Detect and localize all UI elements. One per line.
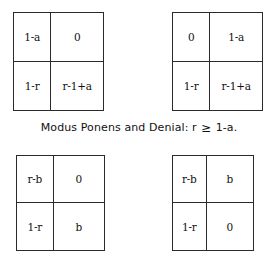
matrix-cell: 1-r (17, 203, 54, 250)
matrix-cell: r-b (17, 156, 54, 203)
figure-container: 1-a 0 1-r r-1+a 0 1-a 1-r r-1+a Modus Po… (0, 0, 278, 264)
matrix-cell: 0 (173, 13, 210, 62)
matrix-cell: 0 (207, 203, 253, 250)
figure-caption: Modus Ponens and Denial: r ≥ 1-a. (0, 120, 278, 134)
matrix-cell: r-1+a (210, 62, 262, 111)
matrix-cell: 0 (54, 156, 104, 203)
matrix-cell: b (207, 156, 253, 203)
matrix-top-left: 1-a 0 1-r r-1+a (13, 12, 104, 111)
matrix-bottom-right: r-b b 1-r 0 (172, 155, 254, 251)
caption-variable: r (192, 121, 197, 134)
matrix-cell: 1-a (14, 13, 51, 62)
caption-prefix: Modus Ponens and Denial: (41, 121, 189, 134)
matrix-cell: 1-r (14, 62, 51, 111)
matrix-cell: 1-r (173, 62, 210, 111)
matrix-bottom-left: r-b 0 1-r b (16, 155, 105, 251)
matrix-cell: b (54, 203, 104, 250)
greater-than-or-equal-icon: ≥ (200, 121, 212, 135)
matrix-cell: 1-a (210, 13, 262, 62)
matrix-cell: r-b (173, 156, 207, 203)
matrix-cell: 0 (51, 13, 103, 62)
matrix-cell: r-1+a (51, 62, 103, 111)
caption-bound: 1-a. (216, 121, 238, 134)
matrix-top-right: 0 1-a 1-r r-1+a (172, 12, 263, 111)
matrix-cell: 1-r (173, 203, 207, 250)
